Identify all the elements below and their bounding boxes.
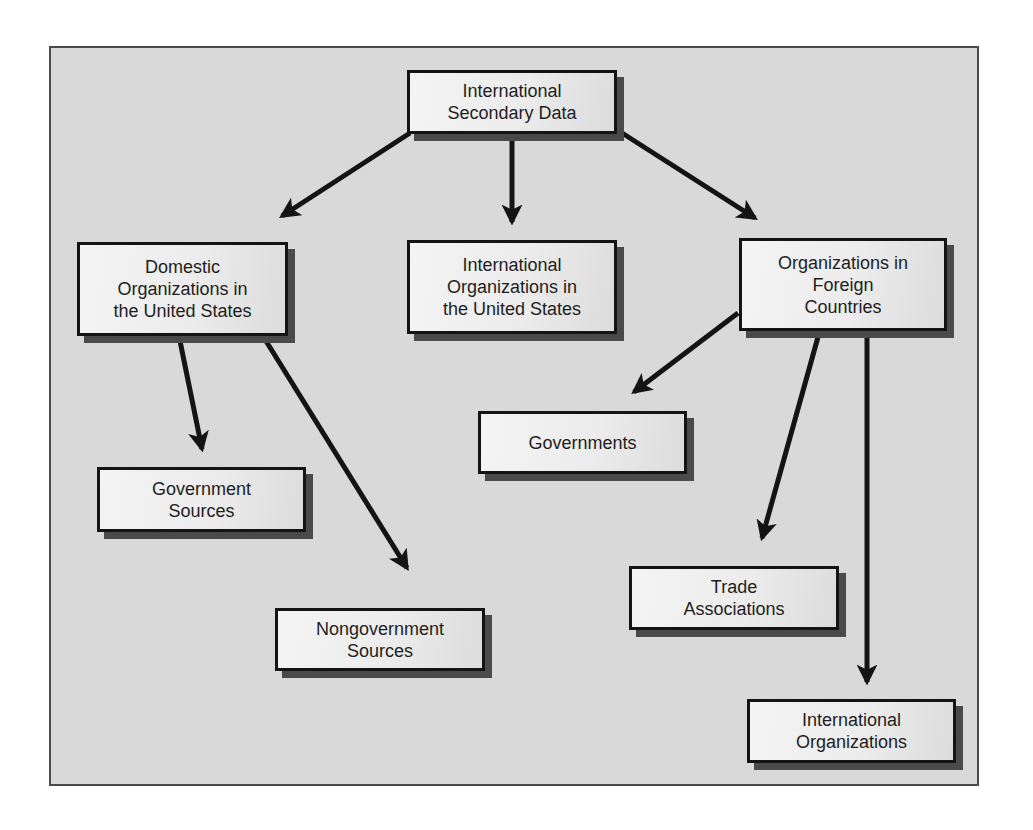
node-governments: Governments <box>478 411 687 474</box>
node-international-organizations-us: International Organizations in the Unite… <box>407 240 617 334</box>
node-government-sources: Government Sources <box>97 467 306 532</box>
node-organizations-foreign-countries: Organizations in Foreign Countries <box>739 238 947 331</box>
node-nongovernment-sources: Nongovernment Sources <box>275 608 485 671</box>
node-domestic-organizations-us: Domestic Organizations in the United Sta… <box>77 242 288 336</box>
node-trade-associations: Trade Associations <box>629 566 839 630</box>
node-international-organizations: International Organizations <box>747 699 956 763</box>
node-international-secondary-data: International Secondary Data <box>407 70 617 134</box>
